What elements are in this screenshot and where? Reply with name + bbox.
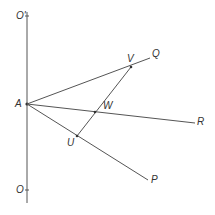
point-w-dot: [94, 111, 97, 114]
label-r: R: [197, 117, 204, 127]
ray-aq-line: [27, 58, 150, 104]
label-v: V: [127, 54, 134, 64]
label-o-prime: O': [16, 11, 26, 21]
point-u-dot: [76, 135, 79, 138]
geometry-diagram: O' A O V Q W R U P: [0, 0, 215, 215]
point-v-dot: [130, 66, 133, 69]
label-q: Q: [152, 49, 160, 59]
label-w: W: [103, 101, 112, 111]
label-u: U: [67, 138, 74, 148]
label-a: A: [15, 99, 22, 109]
label-o: O: [16, 185, 24, 195]
label-p: P: [151, 175, 158, 185]
